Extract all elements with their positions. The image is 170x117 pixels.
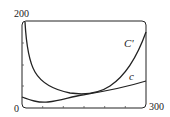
y-max-label: 200 [14,8,29,19]
curve-c-prime [25,22,146,94]
c-label: c [129,70,134,82]
x-max-label: 300 [149,101,164,112]
curve-c [22,81,146,102]
chart: 200 0 300 C' c [0,0,170,117]
origin-label: 0 [14,103,19,114]
c-prime-label: C' [124,37,134,49]
